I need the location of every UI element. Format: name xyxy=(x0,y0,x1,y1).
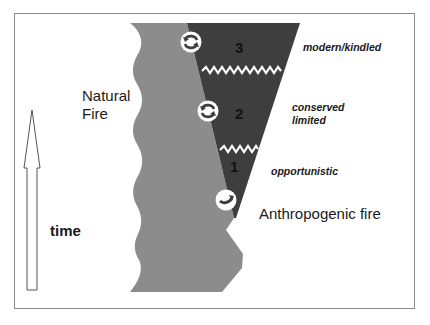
stage-number-1: 1 xyxy=(230,158,238,175)
time-label: time xyxy=(50,222,81,239)
exchange-arrows-icon xyxy=(181,32,202,53)
stage-2-label-line1: conserved xyxy=(292,101,345,114)
stage-3-label-line1: modern/kindled xyxy=(303,41,381,54)
time-arrow xyxy=(24,110,40,290)
natural-fire-label-line1: Natural xyxy=(82,87,130,105)
natural-fire-label-line2: Fire xyxy=(82,105,130,123)
stage-number-2: 2 xyxy=(235,105,243,122)
stage-number-3: 3 xyxy=(235,39,243,56)
stage-3-label: modern/kindled xyxy=(303,41,381,54)
natural-fire-label: Natural Fire xyxy=(82,87,130,123)
stage-1-label: opportunistic xyxy=(271,165,338,178)
exchange-arrows-icon xyxy=(198,101,219,122)
exchange-arrows-icon xyxy=(216,190,237,211)
stage-1-label-line1: opportunistic xyxy=(271,165,338,178)
stage-2-label-line2: limited xyxy=(292,114,345,127)
anthropogenic-fire-label: Anthropogenic fire xyxy=(259,205,381,222)
stage-2-label: conserved limited xyxy=(292,101,345,127)
